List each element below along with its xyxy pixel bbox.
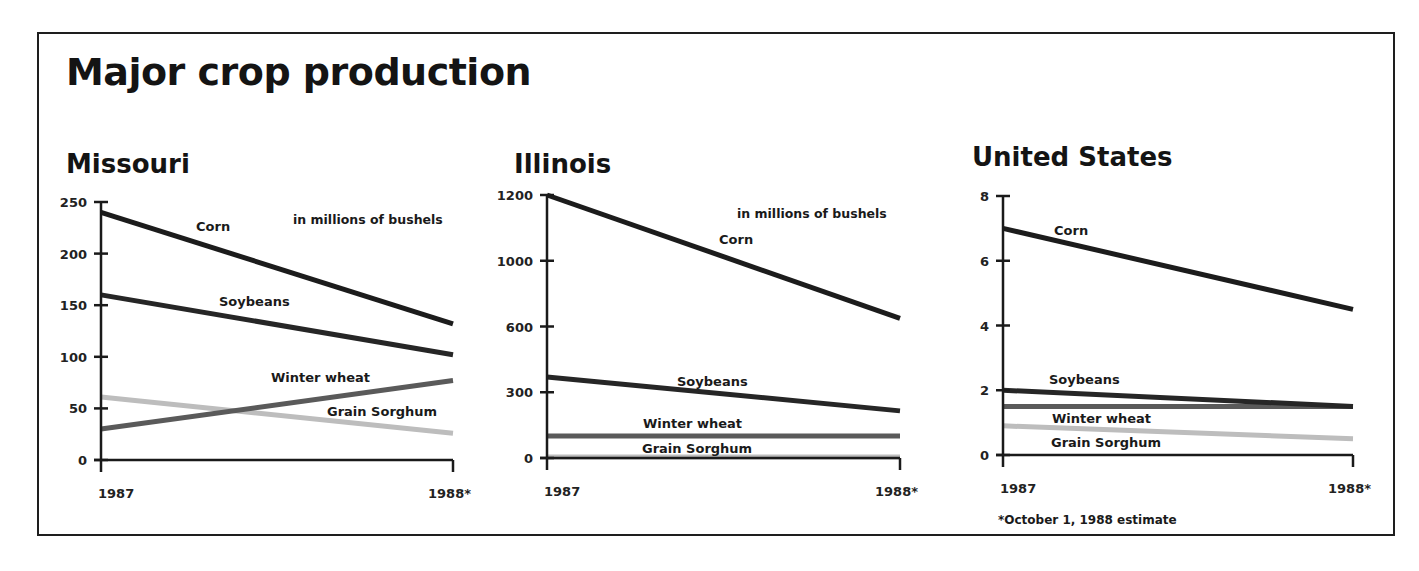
series-label-corn: Corn — [719, 232, 753, 247]
series-label-corn: Corn — [196, 219, 230, 234]
series-label-soybeans: Soybeans — [1049, 372, 1120, 387]
y-tick-label: 4 — [980, 319, 989, 334]
y-tick-label: 250 — [60, 195, 87, 210]
series-line-corn — [1003, 228, 1353, 309]
y-tick-label: 100 — [60, 350, 87, 365]
unit-note: in millions of bushels — [293, 212, 443, 227]
x-tick-label: 1987 — [98, 486, 134, 501]
y-tick-label: 300 — [506, 385, 533, 400]
y-tick-label: 1200 — [497, 188, 533, 203]
charts-canvas: Missouri05010015020025019871988*in milli… — [0, 0, 1419, 571]
y-tick-label: 8 — [980, 189, 989, 204]
x-tick-label: 1988* — [875, 484, 918, 499]
panel-title-missouri: Missouri — [66, 149, 190, 179]
unit-note: in millions of bushels — [737, 206, 887, 221]
panel-title-us: United States — [972, 142, 1173, 172]
y-tick-label: 6 — [980, 254, 989, 269]
y-tick-label: 2 — [980, 383, 989, 398]
series-label-grain-sorghum: Grain Sorghum — [642, 441, 752, 456]
y-tick-label: 1000 — [497, 254, 533, 269]
series-label-soybeans: Soybeans — [677, 374, 748, 389]
y-tick-label: 600 — [506, 320, 533, 335]
y-tick-label: 150 — [60, 298, 87, 313]
y-tick-label: 0 — [524, 451, 533, 466]
x-tick-label: 1987 — [1000, 481, 1036, 496]
footnote: *October 1, 1988 estimate — [998, 513, 1177, 527]
series-label-grain-sorghum: Grain Sorghum — [327, 404, 437, 419]
x-tick-label: 1987 — [544, 484, 580, 499]
y-tick-label: 0 — [78, 453, 87, 468]
y-tick-label: 200 — [60, 247, 87, 262]
x-tick-label: 1988* — [1328, 481, 1371, 496]
y-tick-label: 0 — [980, 448, 989, 463]
y-tick-label: 50 — [69, 401, 87, 416]
series-label-corn: Corn — [1054, 223, 1088, 238]
x-tick-label: 1988* — [428, 486, 471, 501]
panel-title-illinois: Illinois — [514, 149, 611, 179]
series-label-soybeans: Soybeans — [219, 294, 290, 309]
series-label-winter-wheat: Winter wheat — [643, 416, 742, 431]
series-label-winter-wheat: Winter wheat — [271, 370, 370, 385]
series-label-winter-wheat: Winter wheat — [1052, 411, 1151, 426]
series-label-grain-sorghum: Grain Sorghum — [1051, 435, 1161, 450]
